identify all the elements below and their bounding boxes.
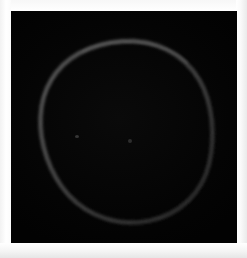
ellipse-outline-graphic xyxy=(11,11,237,243)
frame-edge-bottom xyxy=(0,243,247,258)
frame-edge-left xyxy=(0,0,11,258)
dark-image-panel xyxy=(11,11,237,243)
image-frame: Dark-field ellipse outline xyxy=(0,0,247,258)
frame-edge-top xyxy=(0,0,247,11)
frame-edge-right xyxy=(236,0,247,258)
